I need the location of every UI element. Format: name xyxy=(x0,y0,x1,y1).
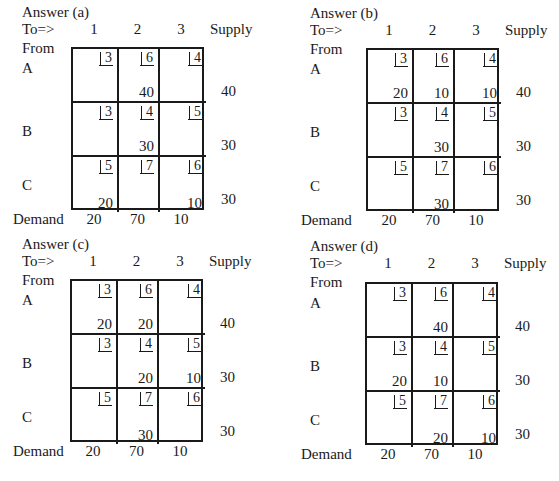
row-label: C xyxy=(310,412,320,429)
demand-value: 10 xyxy=(168,443,192,460)
cell-a-3: 4 xyxy=(160,49,206,103)
row-label: B xyxy=(22,355,32,372)
column-header: 1 xyxy=(84,21,104,38)
supply-value: 30 xyxy=(221,191,236,208)
answer-panel-a: Answer (a) To=> 1 2 3 Supply From A B C … xyxy=(0,0,270,230)
unit-cost: 4 xyxy=(188,51,202,66)
supply-value: 30 xyxy=(220,423,235,440)
column-header: 3 xyxy=(465,255,485,272)
allocation: 20 xyxy=(392,373,407,389)
unit-cost: 4 xyxy=(139,337,153,352)
demand-value: 10 xyxy=(169,211,193,228)
unit-cost: 4 xyxy=(435,106,449,121)
demand-value: 70 xyxy=(125,443,149,460)
allocation: 20 xyxy=(138,370,153,386)
allocation: 20 xyxy=(98,195,113,211)
cell-c-2: 730 xyxy=(414,158,455,213)
demand-label: Demand xyxy=(13,443,64,460)
column-header: 1 xyxy=(378,255,398,272)
unit-cost: 7 xyxy=(140,159,154,174)
unit-cost: 4 xyxy=(434,340,448,355)
unit-cost: 3 xyxy=(394,106,408,121)
cell-a-2: 610 xyxy=(414,50,455,104)
from-label: From xyxy=(310,41,343,58)
panel-title: Answer (a) xyxy=(22,4,89,21)
supply-value: 30 xyxy=(516,138,531,155)
demand-value: 70 xyxy=(420,446,444,463)
unit-cost: 6 xyxy=(435,52,449,67)
cell-b-1: 3 xyxy=(73,103,119,157)
column-header: 3 xyxy=(171,21,191,38)
unit-cost: 6 xyxy=(482,394,496,409)
panel-title: Answer (d) xyxy=(310,238,378,255)
cell-c-2: 7 xyxy=(119,157,160,212)
row-label: A xyxy=(310,295,321,312)
allocation: 10 xyxy=(186,370,201,386)
supply-value: 30 xyxy=(516,192,531,209)
demand-value: 20 xyxy=(81,443,105,460)
from-label: From xyxy=(22,272,55,289)
demand-label: Demand xyxy=(301,212,352,229)
unit-cost: 4 xyxy=(482,286,496,301)
cell-c-3: 6 xyxy=(159,389,205,444)
row-label: A xyxy=(310,61,321,78)
allocation: 30 xyxy=(138,427,153,443)
cell-b-1: 3 xyxy=(72,335,118,389)
cell-b-3: 5 xyxy=(454,338,500,392)
cell-a-1: 3 xyxy=(73,49,119,103)
demand-label: Demand xyxy=(13,211,64,228)
unit-cost: 5 xyxy=(394,160,408,175)
supply-header: Supply xyxy=(504,255,547,272)
cell-a-2: 640 xyxy=(119,49,160,103)
panel-title: Answer (b) xyxy=(310,5,378,22)
unit-cost: 7 xyxy=(434,394,448,409)
supply-header: Supply xyxy=(210,21,253,38)
cell-c-1: 5 xyxy=(72,389,118,444)
allocation: 30 xyxy=(434,196,449,212)
unit-cost: 6 xyxy=(434,286,448,301)
cell-a-3: 4 xyxy=(454,284,500,338)
supply-header: Supply xyxy=(209,253,252,270)
unit-cost: 5 xyxy=(393,394,407,409)
supply-value: 40 xyxy=(220,315,235,332)
unit-cost: 3 xyxy=(393,340,407,355)
supply-value: 30 xyxy=(515,372,530,389)
cell-a-2: 620 xyxy=(118,281,159,335)
cell-c-2: 720 xyxy=(413,392,454,447)
unit-cost: 3 xyxy=(393,286,407,301)
demand-value: 20 xyxy=(376,446,400,463)
demand-label: Demand xyxy=(301,446,352,463)
allocation: 10 xyxy=(481,430,496,446)
demand-value: 70 xyxy=(421,212,445,229)
cell-a-1: 320 xyxy=(72,281,118,335)
row-label: C xyxy=(22,409,32,426)
allocation: 10 xyxy=(433,373,448,389)
transport-table: 3206204342051057306 xyxy=(70,279,203,442)
cell-c-1: 520 xyxy=(73,157,119,212)
cell-b-1: 320 xyxy=(367,338,413,392)
unit-cost: 7 xyxy=(435,160,449,175)
demand-value: 70 xyxy=(126,211,150,228)
cell-a-1: 320 xyxy=(368,50,414,104)
unit-cost: 6 xyxy=(483,160,497,175)
supply-value: 30 xyxy=(220,369,235,386)
allocation: 40 xyxy=(139,84,154,100)
cell-b-3: 510 xyxy=(159,335,205,389)
unit-cost: 4 xyxy=(140,105,154,120)
unit-cost: 6 xyxy=(140,51,154,66)
row-label: A xyxy=(22,292,33,309)
unit-cost: 4 xyxy=(187,283,201,298)
allocation: 30 xyxy=(434,139,449,155)
column-header: 2 xyxy=(127,253,147,270)
unit-cost: 4 xyxy=(483,52,497,67)
allocation: 10 xyxy=(482,85,497,101)
transport-table: 3640432041055720610 xyxy=(365,282,498,445)
cell-b-2: 420 xyxy=(118,335,159,389)
unit-cost: 3 xyxy=(99,51,113,66)
allocation: 40 xyxy=(433,319,448,335)
column-header: 1 xyxy=(379,22,399,39)
allocation: 10 xyxy=(434,85,449,101)
unit-cost: 6 xyxy=(187,391,201,406)
unit-cost: 5 xyxy=(187,337,201,352)
supply-value: 40 xyxy=(221,83,236,100)
